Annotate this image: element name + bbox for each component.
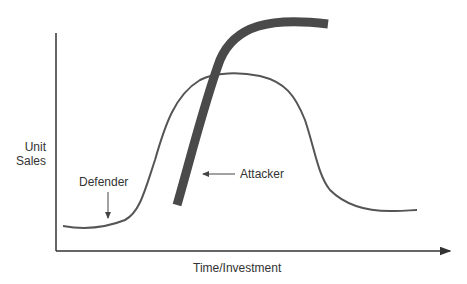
defender-curve xyxy=(63,73,417,228)
diagram-canvas xyxy=(0,0,467,284)
attacker-label: Attacker xyxy=(240,167,284,181)
defender-label: Defender xyxy=(79,175,128,189)
x-axis-label: Time/Investment xyxy=(193,261,281,275)
y-axis-label-line1: Unit xyxy=(6,140,46,154)
y-axis-label-line2: Sales xyxy=(6,154,46,168)
y-axis-label: Unit Sales xyxy=(6,140,46,168)
